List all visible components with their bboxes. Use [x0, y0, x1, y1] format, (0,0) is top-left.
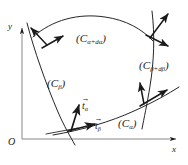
paren-close: ) [102, 32, 106, 44]
label-curve-c-beta: (Cβ) [47, 78, 65, 89]
subscript: β [98, 125, 101, 132]
label-vector-t-beta: tβ [95, 121, 101, 131]
paren-close: ) [165, 59, 169, 71]
subscript: β+dβ [150, 65, 165, 72]
tangent-arrow-bottom-right-b [140, 90, 167, 106]
subscript: α [129, 123, 133, 130]
x-axis-label: x [172, 145, 176, 154]
y-axis-label: y [8, 22, 12, 31]
paren-close: ) [133, 117, 137, 129]
paren-close: ) [62, 77, 66, 89]
figure-container: (Cα+dα) (Cβ+dβ) (Cβ) (Cα) tα tβ y x O [0, 0, 188, 165]
subscript: β [58, 83, 61, 90]
diagram-canvas [0, 0, 188, 165]
origin-label: O [8, 137, 15, 147]
label-curve-c-beta-plus-dbeta: (Cβ+dβ) [139, 60, 169, 71]
tangent-vector-t-alpha [71, 105, 79, 131]
label-curve-c-alpha: (Cα) [118, 118, 136, 129]
label-curve-c-alpha-plus-dalpha: (Cα+dα) [76, 33, 106, 44]
subscript: α [85, 105, 88, 112]
subscript: α+dα [87, 38, 102, 45]
label-vector-t-alpha: tα [82, 101, 88, 111]
tangent-arrow-top-right-b [146, 35, 168, 46]
tangent-arrow-bottom-right-a [140, 83, 144, 104]
